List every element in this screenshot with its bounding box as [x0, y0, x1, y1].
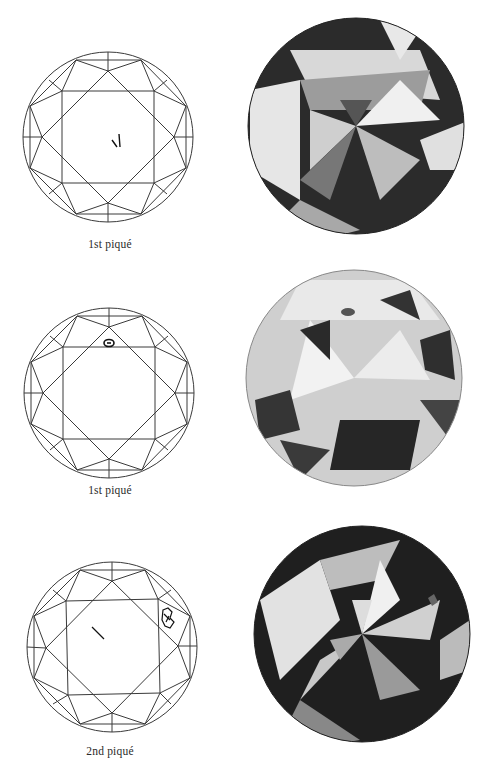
facet-diagram-3	[0, 510, 240, 750]
facet-diagram-2	[0, 256, 240, 496]
diamond-photo-1	[240, 10, 475, 245]
inclusion-mark	[112, 134, 120, 147]
caption-2: 1st piqué	[0, 484, 220, 496]
diamond-photo-3	[244, 518, 479, 753]
facet-diagram-1	[0, 0, 240, 240]
inclusion-mark	[92, 608, 174, 639]
inclusion-mark	[104, 340, 114, 347]
caption-3: 2nd piqué	[0, 745, 220, 757]
caption-1: 1st piqué	[0, 238, 220, 250]
diamond-photo-2	[240, 262, 475, 497]
